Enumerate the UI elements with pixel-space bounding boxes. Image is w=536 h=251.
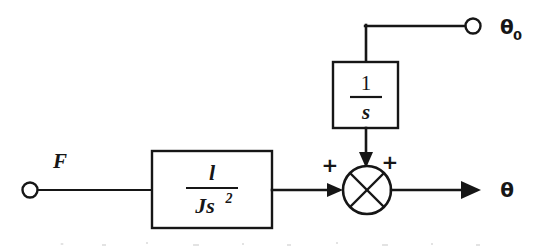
input-terminal-theta0[interactable]	[466, 19, 481, 34]
block-integrator-numerator: 1	[361, 71, 372, 95]
arrowhead-output-theta	[461, 181, 481, 199]
block-integrator-denominator: s	[361, 100, 370, 124]
block-plant-denominator: Js	[194, 193, 215, 218]
block-diagram-canvas: F l Js 2 θ 0 1 s + +	[0, 0, 536, 251]
input-label-f: F	[52, 149, 67, 173]
sign-plus-left-input: +	[322, 153, 339, 177]
arrowhead-plant-to-summer	[327, 183, 343, 197]
block-plant-denominator-exponent: 2	[225, 191, 233, 206]
block-diagram-figure: F l Js 2 θ 0 1 s + +	[0, 0, 536, 251]
input-terminal-f[interactable]	[23, 183, 38, 198]
input-label-theta0: θ	[500, 15, 514, 39]
input-label-theta0-subscript: 0	[513, 28, 522, 43]
sign-plus-top-input: +	[382, 150, 399, 174]
block-plant-numerator: l	[209, 160, 216, 185]
output-label-theta: θ	[500, 178, 514, 202]
